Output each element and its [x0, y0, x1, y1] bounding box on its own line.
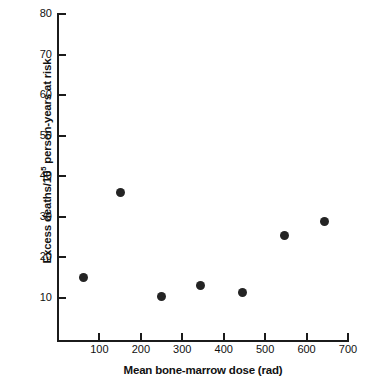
x-tick-600	[306, 333, 308, 340]
y-tick-30	[59, 216, 66, 218]
y-tick-70	[59, 54, 66, 56]
data-point-5	[238, 288, 247, 297]
y-tick-label-60: 60	[30, 88, 52, 100]
x-tick-300	[181, 333, 183, 340]
data-point-4	[196, 281, 205, 290]
x-tick-label-200: 200	[126, 343, 156, 355]
y-axis-title-after: person-years at risk	[41, 59, 53, 167]
x-tick-500	[264, 333, 266, 340]
x-tick-label-700: 700	[333, 343, 363, 355]
x-tick-100	[98, 333, 100, 340]
x-tick-400	[223, 333, 225, 340]
y-tick-label-70: 70	[30, 48, 52, 60]
x-tick-200	[140, 333, 142, 340]
y-tick-20	[59, 256, 66, 258]
x-tick-label-300: 300	[167, 343, 197, 355]
y-tick-label-50: 50	[30, 129, 52, 141]
y-tick-10	[59, 297, 66, 299]
x-axis-title: Mean bone-marrow dose (rad)	[57, 364, 349, 376]
y-tick-label-80: 80	[30, 7, 52, 19]
y-axis-line	[57, 13, 59, 342]
y-tick-label-30: 30	[30, 210, 52, 222]
x-tick-700	[347, 333, 349, 340]
y-tick-60	[59, 94, 66, 96]
y-tick-label-40: 40	[30, 169, 52, 181]
data-point-2	[116, 188, 125, 197]
y-tick-label-20: 20	[30, 250, 52, 262]
data-point-7	[320, 217, 329, 226]
data-point-6	[280, 231, 289, 240]
x-tick-label-100: 100	[84, 343, 114, 355]
scatter-chart: Excess deaths/105 person-years at risk 1…	[0, 0, 369, 385]
data-point-1	[79, 273, 88, 282]
x-tick-label-400: 400	[209, 343, 239, 355]
data-point-3	[157, 292, 166, 301]
x-tick-label-600: 600	[292, 343, 322, 355]
x-tick-label-500: 500	[250, 343, 280, 355]
y-tick-40	[59, 175, 66, 177]
x-axis-line	[57, 340, 349, 342]
y-tick-80	[59, 13, 66, 15]
y-tick-label-10: 10	[30, 291, 52, 303]
y-tick-50	[59, 135, 66, 137]
